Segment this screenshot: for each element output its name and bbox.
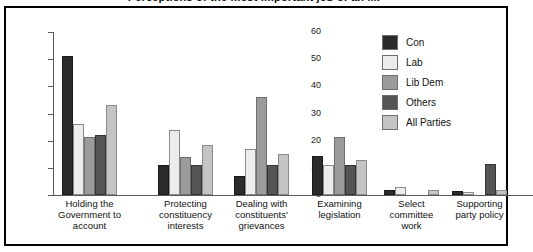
x-axis-label: Dealing withconstituents'grievances (219, 198, 305, 231)
y-axis-line (53, 32, 54, 195)
x-axis-label-line: legislation (303, 209, 377, 220)
bar-group (62, 32, 117, 195)
x-axis-label-line: Government to (46, 209, 134, 220)
bar (245, 149, 256, 195)
legend-swatch-icon (382, 115, 398, 130)
x-axis-label: Protectingconstituencyinterests (145, 198, 227, 231)
legend-label: Others (406, 96, 436, 109)
legend-label: Lab (406, 56, 423, 69)
bar (384, 190, 395, 195)
bar (84, 137, 95, 195)
bar (62, 56, 73, 195)
bar (496, 190, 507, 195)
bar-group (312, 32, 367, 195)
legend-label: All Parties (406, 116, 451, 129)
x-axis-label-line: constituency (145, 209, 227, 220)
x-axis-label: Examininglegislation (303, 198, 377, 220)
chart-title: Perceptions of the most important job of… (0, 0, 512, 3)
bar (334, 137, 345, 195)
bar (73, 124, 84, 195)
bar (485, 164, 496, 195)
x-axis-label-line: Examining (303, 198, 377, 209)
x-axis-label-line: Protecting (145, 198, 227, 209)
bar (312, 156, 323, 195)
x-axis-category-labels: Holding theGovernment toaccountProtectin… (54, 198, 374, 244)
legend-label: Con (406, 36, 424, 49)
legend-item[interactable]: Lab (382, 54, 502, 73)
x-axis-label-line: party policy (440, 209, 520, 220)
x-axis-label-line: Supporting (440, 198, 520, 209)
bar (452, 191, 463, 195)
bar (395, 187, 406, 195)
bar (169, 130, 180, 195)
bar (180, 157, 191, 195)
y-tick-mark (48, 86, 53, 87)
bar (234, 176, 245, 195)
legend-label: Lib Dem (406, 76, 443, 89)
x-axis-label-line: Holding the (46, 198, 134, 209)
legend-swatch-icon (382, 55, 398, 70)
legend-item[interactable]: Others (382, 94, 502, 113)
y-tick-mark (48, 168, 53, 169)
legend-item[interactable]: Con (382, 34, 502, 53)
chart-frame: 0102030405060 Holding theGovernment toac… (4, 6, 508, 246)
x-axis-label-line: interests (145, 220, 227, 231)
plot-area: 0102030405060 (53, 32, 371, 195)
bar (95, 135, 106, 195)
legend-swatch-icon (382, 95, 398, 110)
bar (323, 165, 334, 195)
y-tick-mark (48, 114, 53, 115)
x-axis-label: Selectcommitteework (375, 198, 449, 231)
bar (267, 165, 278, 195)
bar-group (234, 32, 289, 195)
x-axis-label-line: Select (375, 198, 449, 209)
y-tick-mark (48, 195, 53, 196)
bar-group (158, 32, 213, 195)
y-tick-mark (48, 59, 53, 60)
x-axis-label-line: work (375, 220, 449, 231)
bar (106, 105, 117, 195)
y-tick-mark (48, 32, 53, 33)
bar (345, 165, 356, 195)
legend-swatch-icon (382, 35, 398, 50)
x-axis-label-line: grievances (219, 220, 305, 231)
bar (428, 190, 439, 195)
x-axis-label-line: constituents' (219, 209, 305, 220)
bar (158, 165, 169, 195)
x-axis-label: Supportingparty policy (440, 198, 520, 220)
legend-swatch-icon (382, 75, 398, 90)
bar (202, 145, 213, 195)
x-axis-label-line: Dealing with (219, 198, 305, 209)
x-axis-label: Holding theGovernment toaccount (46, 198, 134, 231)
x-axis-label-line: account (46, 220, 134, 231)
x-axis-label-line: committee (375, 209, 449, 220)
bar (191, 165, 202, 195)
bar (463, 192, 474, 195)
legend-item[interactable]: All Parties (382, 114, 502, 133)
y-tick-mark (48, 141, 53, 142)
legend-item[interactable]: Lib Dem (382, 74, 502, 93)
bar (256, 97, 267, 195)
chart-legend: ConLabLib DemOthersAll Parties (382, 34, 502, 134)
bar (278, 154, 289, 195)
bar (356, 160, 367, 195)
